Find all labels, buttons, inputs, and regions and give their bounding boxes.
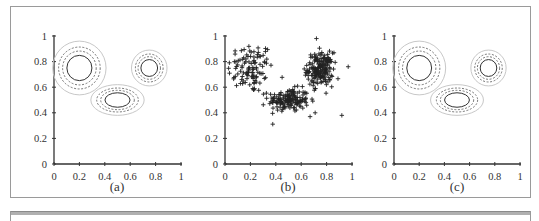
gaussian-component	[131, 50, 167, 86]
plus-marker	[333, 60, 337, 64]
y-tick-label: 0.2	[205, 133, 218, 144]
plus-marker	[261, 103, 265, 107]
x-tick-label: 0	[222, 171, 227, 182]
gaussian-component	[53, 41, 106, 95]
plus-marker	[271, 122, 275, 126]
plus-marker	[301, 93, 305, 97]
panel-a-contour-plot: 00.20.40.60.8100.20.40.60.81(a)	[34, 31, 184, 195]
contour-line	[63, 51, 97, 85]
plus-marker	[346, 65, 350, 69]
contour-line	[91, 85, 144, 116]
plus-marker	[311, 99, 315, 103]
plus-marker	[340, 113, 344, 117]
contour-line	[436, 88, 477, 112]
plus-marker	[275, 108, 279, 112]
panel-caption: (b)	[280, 179, 295, 194]
y-tick-label: 1	[42, 31, 47, 42]
plus-marker	[227, 71, 231, 75]
x-tick-label: 1	[178, 171, 183, 182]
contour-line	[403, 51, 436, 85]
plus-marker	[324, 91, 328, 95]
plus-marker	[304, 97, 308, 101]
plus-marker	[304, 63, 308, 67]
x-tick-label: 0.2	[244, 171, 257, 182]
plus-marker	[313, 111, 317, 115]
plus-marker	[265, 57, 269, 61]
plus-marker	[247, 44, 251, 48]
y-tick-label: 0.2	[34, 133, 47, 144]
x-tick-label: 0	[391, 171, 396, 182]
axes: 00.20.40.60.8100.20.40.60.81	[34, 31, 184, 183]
plus-marker	[260, 64, 264, 68]
contour-line	[445, 93, 470, 107]
plus-marker	[314, 36, 318, 40]
panel-b-scatter-plot: 00.20.40.60.8100.20.40.60.81(b)	[205, 31, 355, 195]
plus-marker	[330, 85, 334, 89]
y-tick-label: 0.8	[34, 56, 47, 67]
plus-marker	[264, 91, 268, 95]
plus-marker	[261, 53, 265, 57]
plus-marker	[227, 61, 231, 65]
contour-line	[141, 60, 158, 77]
y-tick-label: 0.4	[205, 107, 219, 118]
y-tick-label: 0	[42, 159, 47, 170]
x-tick-label: 0.6	[124, 171, 137, 182]
contours	[53, 41, 167, 115]
contour-line	[138, 57, 160, 80]
x-tick-label: 0.8	[149, 171, 162, 182]
plus-marker	[245, 76, 249, 80]
plus-marker	[278, 105, 282, 109]
y-tick-label: 0.6	[205, 82, 218, 93]
y-tick-label: 0	[382, 159, 387, 170]
contour-line	[131, 50, 167, 86]
plus-marker	[269, 63, 273, 67]
contour-line	[407, 55, 432, 80]
plus-marker	[295, 84, 299, 88]
x-tick-label: 0.2	[413, 171, 426, 182]
plus-marker	[264, 96, 268, 100]
x-tick-label: 0.2	[73, 171, 86, 182]
figure-canvas: 00.20.40.60.8100.20.40.60.81(a) 00.20.40…	[0, 0, 539, 221]
contour-line	[431, 85, 484, 116]
y-tick-label: 0.8	[374, 56, 387, 67]
contour-line	[477, 57, 499, 80]
contour-line	[480, 60, 497, 77]
plus-marker	[310, 97, 314, 101]
y-tick-label: 0.6	[374, 82, 387, 93]
contour-line	[59, 47, 101, 89]
y-tick-label: 1	[382, 31, 387, 42]
contour-line	[97, 88, 139, 112]
plus-marker	[258, 62, 262, 66]
x-tick-label: 0.8	[320, 171, 333, 182]
x-tick-label: 0.6	[463, 171, 476, 182]
plus-marker	[271, 106, 275, 110]
y-tick-label: 1	[213, 31, 218, 42]
contour-line	[67, 55, 92, 80]
plus-marker	[248, 54, 252, 58]
plus-marker	[256, 46, 260, 50]
plus-marker	[236, 72, 240, 76]
x-tick-label: 0.6	[295, 171, 308, 182]
panel-caption: (c)	[450, 179, 464, 194]
x-tick-label: 1	[517, 171, 522, 182]
y-tick-label: 0.4	[374, 107, 388, 118]
plus-marker	[261, 92, 265, 96]
gaussian-component	[431, 85, 484, 116]
y-tick-label: 0.2	[374, 133, 387, 144]
y-tick-label: 0.4	[34, 107, 48, 118]
plus-marker	[308, 114, 312, 118]
plus-marker	[258, 81, 262, 85]
contour-line	[53, 41, 106, 95]
plus-marker	[317, 46, 321, 50]
gaussian-component	[393, 41, 446, 95]
plus-marker	[336, 77, 340, 81]
contour-line	[135, 54, 163, 82]
x-tick-label: 0.8	[488, 171, 501, 182]
x-tick-label: 0	[51, 171, 56, 182]
scatter-points	[226, 36, 350, 126]
axes: 00.20.40.60.8100.20.40.60.81	[374, 31, 523, 183]
plus-marker	[280, 75, 284, 79]
contour-line	[475, 54, 503, 82]
y-tick-label: 0.6	[34, 82, 47, 93]
gaussian-component	[91, 85, 144, 116]
